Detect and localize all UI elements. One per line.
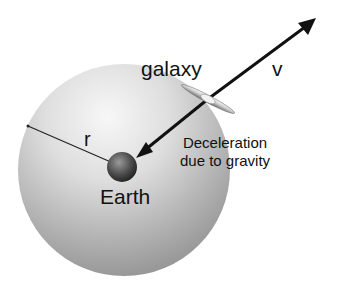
radius-line-end bbox=[27, 125, 30, 128]
earth-label: Earth bbox=[100, 186, 150, 207]
deceleration-label: Deceleration due to gravity bbox=[180, 134, 270, 170]
galaxy-label: galaxy bbox=[141, 58, 202, 79]
deceleration-label-line2: due to gravity bbox=[180, 152, 270, 170]
earth-icon bbox=[107, 152, 137, 182]
velocity-arrow-shaft bbox=[208, 27, 305, 99]
diagram-canvas bbox=[0, 0, 337, 294]
velocity-arrow-head-icon bbox=[298, 18, 316, 35]
deceleration-label-line1: Deceleration bbox=[180, 134, 270, 152]
velocity-label: v bbox=[272, 58, 283, 79]
radius-label: r bbox=[84, 129, 91, 149]
